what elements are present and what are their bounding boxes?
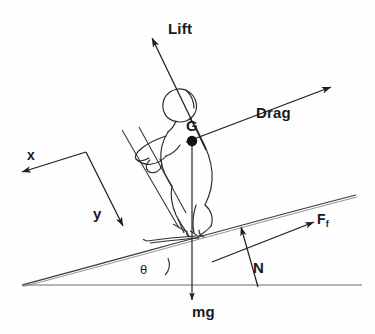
axis-y-label: y <box>93 205 102 222</box>
weight-label: mg <box>192 303 215 320</box>
friction-force-label: Ff <box>317 211 329 227</box>
angle-label: θ <box>140 262 147 277</box>
center-of-gravity-dot <box>187 136 197 146</box>
slope-line <box>22 195 357 287</box>
lift-label: Lift <box>168 20 192 37</box>
skier-figure <box>135 89 212 237</box>
lift-vector <box>152 38 206 150</box>
drag-label: Drag <box>256 104 291 121</box>
friction-subscript: f <box>326 219 329 229</box>
friction-symbol: F <box>317 211 326 227</box>
center-of-gravity-label: G <box>186 117 198 134</box>
angle-arc <box>165 258 169 275</box>
normal-force-label: N <box>253 259 264 276</box>
normal-force-vector <box>241 227 258 287</box>
force-diagram-canvas <box>0 0 375 334</box>
axis-x-label: x <box>27 147 35 163</box>
friction-force-vector <box>212 222 314 262</box>
coordinate-axes <box>22 152 123 226</box>
